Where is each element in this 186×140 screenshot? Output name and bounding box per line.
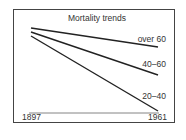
label-over-60: over 60 — [138, 34, 167, 44]
label-20-40: 20–40 — [142, 91, 166, 101]
x-tick-1961: 1961 — [148, 112, 167, 122]
mortality-chart: Mortality trends over 60 40–60 20–40 189… — [0, 0, 186, 140]
label-40-60: 40–60 — [142, 59, 166, 69]
x-tick-1897: 1897 — [22, 112, 41, 122]
chart-title: Mortality trends — [68, 13, 126, 23]
